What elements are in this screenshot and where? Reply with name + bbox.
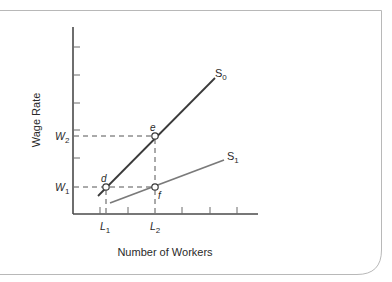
guide-lines [74, 136, 155, 214]
label-f: f [158, 190, 162, 201]
label-l1: L1 [100, 220, 111, 235]
chart-canvas: d e f S0 S1 W2 W1 L1 L2 Wage Rate Number… [0, 0, 392, 282]
label-w1: W1 [55, 181, 70, 196]
label-s0: S0 [215, 67, 227, 82]
point-e [152, 133, 158, 139]
label-s1: S1 [227, 150, 239, 165]
frame-border [0, 11, 382, 275]
x-axis-title: Number of Workers [117, 246, 213, 258]
label-d: d [101, 173, 107, 184]
chart-figure: d e f S0 S1 W2 W1 L1 L2 Wage Rate Number… [0, 0, 392, 282]
y-ticks [73, 47, 80, 158]
label-l2: L2 [150, 220, 161, 235]
label-w2: W2 [55, 130, 70, 145]
x-ticks [100, 207, 237, 214]
label-e: e [150, 122, 156, 133]
y-axis-title: Wage Rate [30, 93, 42, 148]
point-d [103, 184, 109, 190]
